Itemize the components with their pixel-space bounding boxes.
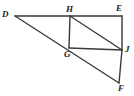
geometry-drawing-canvas [0,0,134,96]
segment-h-g [69,16,70,48]
vertex-label-f: F [118,84,124,93]
vertex-label-h: H [66,5,73,14]
segment-j-f [119,50,122,83]
vertex-label-g: G [64,50,71,59]
segment-g-j [69,48,122,50]
geometry-figure: DHEGJF [0,0,134,96]
vertex-label-d: D [2,10,9,19]
vertex-label-j: J [125,45,130,54]
segment-h-j [70,16,122,50]
vertex-label-e: E [116,4,122,13]
